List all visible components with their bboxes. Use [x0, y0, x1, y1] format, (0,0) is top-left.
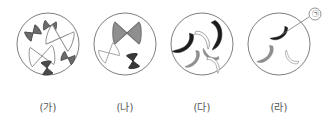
cell-label-na: (나): [94, 99, 156, 114]
chromosome-comparison-figure: ㉠ (가) (나) (다) (라): [0, 0, 329, 124]
cell-da: [171, 13, 233, 75]
cell-label-da: (다): [171, 99, 233, 114]
cell-na: [94, 13, 156, 75]
callout-symbol-label: ㉠: [310, 9, 320, 19]
cell-membrane-da: [171, 13, 233, 75]
cell-label-ga: (가): [17, 99, 79, 114]
cell-ga: [17, 13, 79, 76]
cell-membrane-na: [94, 13, 156, 75]
cell-label-ra: (라): [248, 99, 310, 114]
